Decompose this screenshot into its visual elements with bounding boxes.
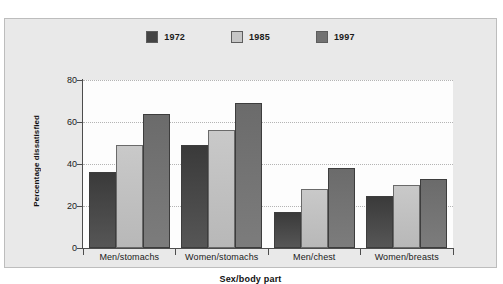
legend-swatch-1985	[231, 31, 243, 43]
bar-group-women-breasts	[361, 80, 454, 248]
y-tick-mark-80	[77, 80, 82, 81]
bar-men-chest-1985[interactable]	[301, 189, 328, 248]
bar-women-stomachs-1985[interactable]	[208, 130, 235, 248]
x-category-men-chest: Men/chest	[268, 252, 361, 262]
x-category-men-stomachs: Men/stomachs	[83, 252, 176, 262]
legend-item-1972[interactable]: 1972	[146, 31, 185, 43]
y-axis-title: Percentage dissatisfied	[32, 115, 46, 207]
bar-women-breasts-1997[interactable]	[420, 179, 447, 248]
y-tick-label-20: 20	[57, 201, 77, 211]
bar-women-breasts-1972[interactable]	[366, 196, 393, 249]
bars-layer	[83, 80, 453, 248]
chart-figure-panel: 1972 1985 1997 Percentage dissatisfied 8…	[4, 18, 497, 268]
x-category-separator	[453, 249, 454, 255]
y-tick-label-0: 0	[57, 243, 77, 253]
legend-label-1997: 1997	[334, 32, 355, 42]
y-tick-label-60: 60	[57, 117, 77, 127]
y-tick-label-40: 40	[57, 159, 77, 169]
bar-men-stomachs-1997[interactable]	[143, 114, 170, 248]
legend-label-1985: 1985	[249, 32, 270, 42]
bar-group-men-stomachs	[83, 80, 176, 248]
chart-legend: 1972 1985 1997	[5, 31, 496, 43]
bar-men-stomachs-1985[interactable]	[116, 145, 143, 248]
bar-men-chest-1972[interactable]	[274, 212, 301, 248]
bar-group-women-stomachs	[176, 80, 269, 248]
bar-women-stomachs-1997[interactable]	[235, 103, 262, 248]
bar-group-men-chest	[268, 80, 361, 248]
x-category-women-stomachs: Women/stomachs	[176, 252, 269, 262]
y-tick-mark-20	[77, 206, 82, 207]
legend-label-1972: 1972	[164, 32, 185, 42]
y-tick-mark-0	[77, 248, 82, 249]
bar-women-breasts-1985[interactable]	[393, 185, 420, 248]
x-axis-title: Sex/body part	[5, 274, 496, 284]
x-category-women-breasts: Women/breasts	[361, 252, 454, 262]
bar-men-stomachs-1972[interactable]	[89, 172, 116, 248]
y-tick-label-80: 80	[57, 75, 77, 85]
legend-item-1985[interactable]: 1985	[231, 31, 270, 43]
y-tick-mark-60	[77, 122, 82, 123]
legend-swatch-1997	[316, 31, 328, 43]
y-tick-mark-40	[77, 164, 82, 165]
bar-men-chest-1997[interactable]	[328, 168, 355, 248]
legend-item-1997[interactable]: 1997	[316, 31, 355, 43]
x-axis-categories: Men/stomachs Women/stomachs Men/chest Wo…	[83, 252, 453, 262]
y-axis-ticks: 80 60 40 20 0	[53, 80, 77, 248]
bar-women-stomachs-1972[interactable]	[181, 145, 208, 248]
legend-swatch-1972	[146, 31, 158, 43]
